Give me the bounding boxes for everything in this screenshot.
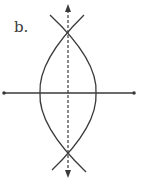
endpoint-a — [2, 91, 6, 95]
bisector-diagram — [0, 0, 141, 192]
arrow-up-icon — [65, 4, 71, 12]
endpoint-b — [132, 91, 136, 95]
arrow-down-icon — [65, 170, 71, 178]
diagram-canvas: b. — [0, 0, 141, 192]
